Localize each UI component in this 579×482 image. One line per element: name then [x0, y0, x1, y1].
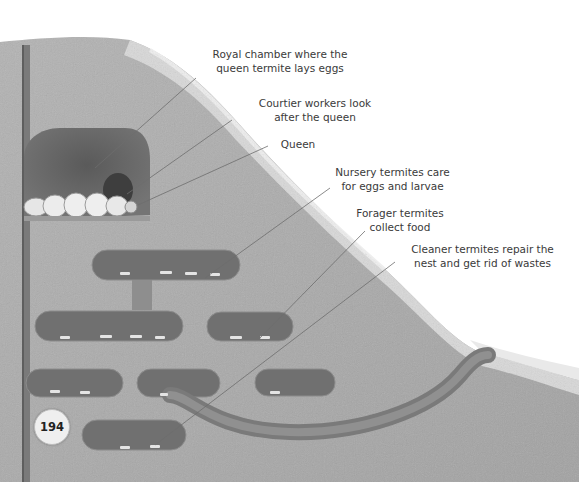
- label-cleaner-termites: Cleaner termites repair the nest and get…: [395, 243, 570, 270]
- label-queen: Queen: [268, 138, 328, 152]
- label-forager-termites: Forager termites collect food: [345, 207, 455, 234]
- label-nursery-termites: Nursery termites care for eggs and larva…: [320, 166, 465, 193]
- ventilation-shaft: [22, 45, 30, 482]
- royal-chamber: [24, 128, 150, 221]
- page-number-badge: 194: [34, 409, 70, 445]
- label-royal-chamber: Royal chamber where the queen termite la…: [200, 48, 360, 75]
- label-courtier-workers: Courtier workers look after the queen: [245, 97, 385, 124]
